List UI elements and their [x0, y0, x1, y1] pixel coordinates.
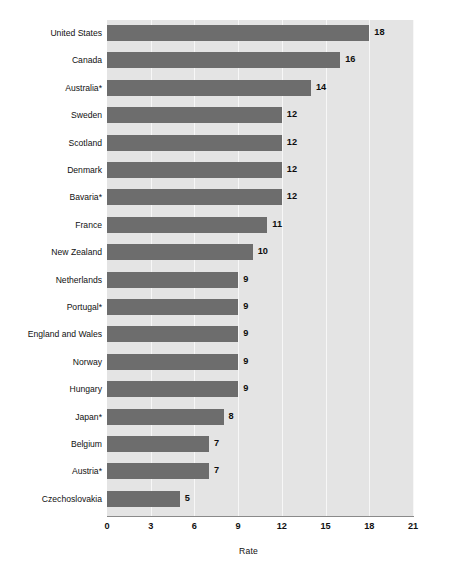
plot-area: 18United States16Canada14Australia*12Swe…	[107, 20, 413, 517]
category-label: Hungary	[3, 384, 102, 394]
bar-row: 12Sweden	[107, 102, 413, 129]
bar	[107, 80, 311, 96]
category-label: Scotland	[3, 138, 102, 148]
bar-value-label: 8	[229, 411, 234, 421]
bar	[107, 436, 209, 452]
bar-value-label: 9	[243, 328, 248, 338]
x-tick-21: 21	[393, 521, 433, 531]
bar-value-label: 9	[243, 383, 248, 393]
bar-row: 14Australia*	[107, 75, 413, 102]
bar-row: 12Scotland	[107, 130, 413, 157]
bar	[107, 107, 282, 123]
bar-row: 18United States	[107, 20, 413, 47]
x-tick-3: 3	[131, 521, 171, 531]
bar	[107, 217, 267, 233]
x-tick-18: 18	[349, 521, 389, 531]
bar-value-label: 5	[185, 493, 190, 503]
bar-row: 9Norway	[107, 349, 413, 376]
category-label: Denmark	[3, 165, 102, 175]
bar-chart: 18United States16Canada14Australia*12Swe…	[0, 0, 455, 578]
category-label: Canada	[3, 55, 102, 65]
bar-row: 12Bavaria*	[107, 184, 413, 211]
category-label: Norway	[3, 357, 102, 367]
category-label: Czechoslovakia	[3, 494, 102, 504]
bar-value-label: 9	[243, 356, 248, 366]
category-label: Netherlands	[3, 275, 102, 285]
bar	[107, 463, 209, 479]
category-label: France	[3, 220, 102, 230]
bar	[107, 272, 238, 288]
bar	[107, 135, 282, 151]
bar-value-label: 12	[287, 164, 297, 174]
bar-value-label: 7	[214, 438, 219, 448]
category-label: Austria*	[3, 466, 102, 476]
bar-row: 7Belgium	[107, 431, 413, 458]
bar-value-label: 12	[287, 191, 297, 201]
category-label: Australia*	[3, 83, 102, 93]
category-label: Belgium	[3, 439, 102, 449]
bar	[107, 52, 340, 68]
bar-value-label: 18	[374, 27, 384, 37]
x-tick-6: 6	[174, 521, 214, 531]
bar	[107, 244, 253, 260]
category-label: New Zealand	[3, 247, 102, 257]
bar	[107, 299, 238, 315]
x-tick-15: 15	[306, 521, 346, 531]
bar	[107, 162, 282, 178]
category-label: England and Wales	[3, 329, 102, 339]
bar-value-label: 12	[287, 109, 297, 119]
bar-value-label: 14	[316, 82, 326, 92]
bar	[107, 354, 238, 370]
bar-value-label: 7	[214, 465, 219, 475]
x-tick-9: 9	[218, 521, 258, 531]
x-axis-title-label: Rate	[239, 546, 258, 556]
category-label: United States	[3, 28, 102, 38]
x-tick-12: 12	[262, 521, 302, 531]
bar-value-label: 9	[243, 301, 248, 311]
bar-row: 16Canada	[107, 47, 413, 74]
category-label: Portugal*	[3, 302, 102, 312]
bar	[107, 491, 180, 507]
x-axis-title: Rate	[0, 546, 455, 556]
bar-value-label: 16	[345, 54, 355, 64]
bar	[107, 326, 238, 342]
bar	[107, 409, 224, 425]
bar-row: 9Hungary	[107, 376, 413, 403]
bar-row: 5Czechoslovakia	[107, 486, 413, 513]
bar-row: 8Japan*	[107, 404, 413, 431]
x-tick-0: 0	[87, 521, 127, 531]
category-label: Bavaria*	[3, 192, 102, 202]
bar-value-label: 10	[258, 246, 268, 256]
bar-value-label: 12	[287, 137, 297, 147]
category-label: Sweden	[3, 110, 102, 120]
bar-row: 11France	[107, 212, 413, 239]
bar	[107, 189, 282, 205]
bar-row: 10New Zealand	[107, 239, 413, 266]
bar-row: 12Denmark	[107, 157, 413, 184]
x-axis-line	[107, 516, 414, 517]
bar-value-label: 9	[243, 274, 248, 284]
bar-row: 9Netherlands	[107, 267, 413, 294]
bar	[107, 25, 369, 41]
bar-row: 9England and Wales	[107, 321, 413, 348]
category-label: Japan*	[3, 412, 102, 422]
bar	[107, 381, 238, 397]
gridline-21	[413, 20, 414, 517]
bar-row: 9Portugal*	[107, 294, 413, 321]
bar-row: 7Austria*	[107, 458, 413, 485]
bar-value-label: 11	[272, 219, 282, 229]
